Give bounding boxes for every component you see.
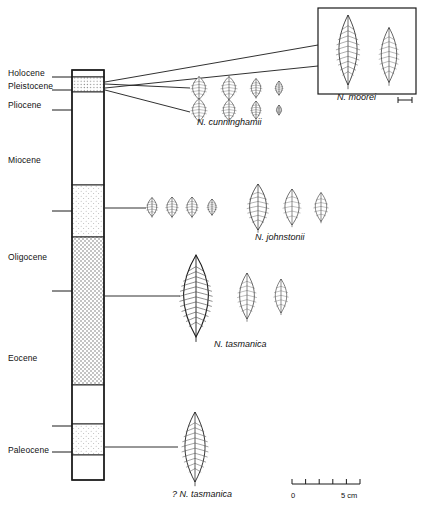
column-bands	[72, 70, 104, 480]
leaf-illustrations	[146, 77, 329, 487]
column-band-base-blank	[72, 455, 104, 480]
epoch-label-eocene: Eocene	[8, 353, 37, 363]
connector-cunninghamii	[105, 84, 190, 88]
epoch-label-holocene: Holocene	[8, 68, 45, 78]
leaf-johnstonii-0-0	[247, 184, 269, 233]
taxon-label-tasmanica-query: ? N. tasmanica	[172, 489, 232, 499]
leaf-cunninghamii-1-3	[276, 105, 282, 116]
leaf-cunninghamii-0-1	[220, 77, 237, 101]
taxon-label-johnstonii: N. johnstonii	[255, 232, 305, 242]
column-band-pliocene-miocene-blank	[72, 92, 104, 185]
figure-root: HolocenePleistocenePlioceneMioceneOligoc…	[0, 0, 424, 514]
leaf-tasmanica-0-1	[237, 273, 257, 322]
leaf-johnstonii-small-0-3	[207, 199, 218, 216]
leaf-cunninghamii-0-0	[190, 77, 207, 101]
inset-border	[318, 8, 416, 94]
connector-inset	[105, 66, 318, 88]
connector-lines	[105, 45, 318, 447]
taxon-label-cunninghamii: N. cunninghamii	[197, 117, 262, 127]
epoch-label-pliocene: Pliocene	[8, 100, 41, 110]
epoch-label-pleistocene: Pleistocene	[8, 81, 53, 91]
epoch-tick-marks	[52, 77, 72, 452]
scale-bar-graphic	[292, 479, 360, 484]
epoch-label-miocene: Miocene	[8, 155, 41, 165]
leaf-cunninghamii-0-3	[275, 81, 284, 96]
figure-artwork	[0, 0, 424, 514]
connector-cunninghamii	[105, 90, 190, 112]
column-band-oligocene-eocene-dense	[72, 237, 104, 385]
inset-box	[318, 8, 416, 103]
column-band-paleocene-light	[72, 424, 104, 455]
epoch-label-oligocene: Oligocene	[8, 252, 47, 262]
leaf-johnstonii-0-1	[283, 189, 302, 227]
connector-inset	[105, 45, 318, 82]
epoch-label-paleocene: Paleocene	[8, 445, 49, 455]
leaf-cunninghamii-0-2	[250, 79, 263, 99]
leaf-tasmanica-0-0	[179, 255, 212, 342]
leaf-johnstonii-small-0-1	[165, 197, 178, 218]
column-band-eocene-blank	[72, 385, 104, 424]
leaf-johnstonii-0-2	[313, 193, 328, 224]
scalebar-start-label: 0	[291, 491, 295, 500]
column-band-holocene-blank	[72, 70, 104, 77]
scalebar-end-label: 5 cm	[341, 491, 357, 500]
leaf-johnstonii-small-0-0	[146, 198, 159, 218]
leaf-johnstonii-small-0-2	[185, 197, 198, 218]
taxon-label-moorei: N. moorei	[337, 92, 376, 102]
taxon-label-tasmanica: N. tasmanica	[214, 339, 267, 349]
column-band-pleistocene-stipple	[72, 77, 104, 92]
leaf-tasmanica-query-0-0	[182, 412, 209, 486]
column-band-upper-oligocene-light	[72, 185, 104, 237]
leaf-tasmanica-0-2	[273, 279, 288, 315]
